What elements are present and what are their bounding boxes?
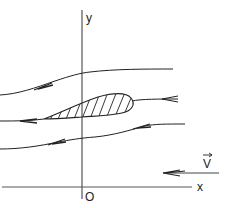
arrowhead-icon bbox=[133, 124, 151, 129]
lower-streamline bbox=[0, 124, 185, 149]
origin-label: O bbox=[85, 190, 94, 204]
flow-diagram: y O x V bbox=[0, 0, 230, 208]
arrowhead-icon bbox=[48, 139, 66, 145]
x-axis-label: x bbox=[197, 180, 203, 194]
upper-streamline bbox=[0, 69, 173, 95]
arrowhead-icon bbox=[20, 119, 37, 123]
velocity-label: V bbox=[203, 157, 211, 171]
y-axis-label: y bbox=[86, 11, 92, 25]
airfoil bbox=[44, 90, 134, 124]
arrowhead-icon bbox=[34, 83, 53, 90]
